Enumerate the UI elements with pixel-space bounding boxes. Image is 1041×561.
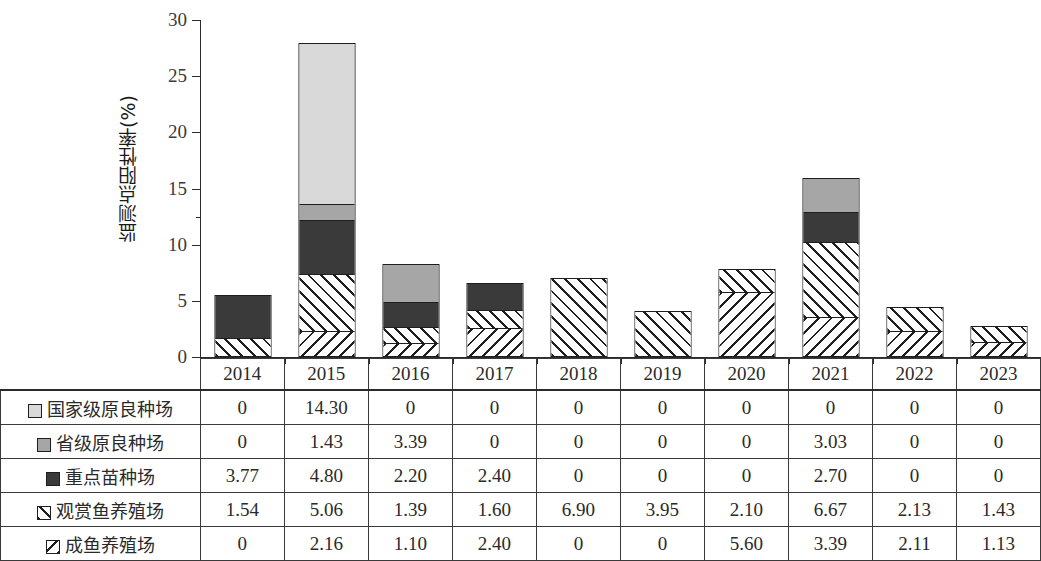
bar-stack[interactable]	[383, 264, 440, 357]
bar-stack[interactable]	[887, 307, 944, 357]
cell-2020: 0	[704, 459, 788, 493]
cell-2014: 3.77	[200, 459, 284, 493]
bar-stack[interactable]	[971, 326, 1028, 357]
bar-column-2022[interactable]	[873, 20, 957, 357]
cell-2014: 0	[200, 390, 284, 425]
column-header-2014: 2014	[200, 359, 284, 391]
cell-2018: 0	[536, 459, 620, 493]
y-tick-label-wrap: 30	[145, 10, 187, 29]
bar-segment	[972, 343, 1027, 356]
bar-column-2020[interactable]	[705, 20, 789, 357]
bar-segment	[384, 265, 439, 303]
bar-segment	[804, 179, 859, 213]
bar-segment	[720, 293, 775, 356]
bar-column-2018[interactable]	[537, 20, 621, 357]
cell-2016: 1.39	[368, 493, 452, 527]
bar-column-2023[interactable]	[957, 20, 1041, 357]
column-header-2022: 2022	[872, 359, 956, 391]
column-header-2021: 2021	[788, 359, 872, 391]
table-corner-blank	[1, 359, 201, 391]
table-body: 国家级原良种场014.3000000000省级原良种场01.433.390000…	[1, 390, 1041, 561]
bar-segment	[888, 308, 943, 332]
legend-row-label-dark: 重点苗种场	[1, 459, 201, 493]
column-header-2019: 2019	[620, 359, 704, 391]
cell-2018: 0	[536, 390, 620, 425]
y-axis-title: 监测点阳性率(%)	[118, 95, 148, 242]
cell-2023: 0	[956, 459, 1040, 493]
column-header-2017: 2017	[452, 359, 536, 391]
bar-segment	[468, 311, 523, 329]
bar-segment	[300, 332, 355, 356]
series-name: 观赏鱼养殖场	[56, 501, 164, 522]
legend-row-label-medium: 省级原良种场	[1, 425, 201, 459]
table-row: 重点苗种场3.774.802.202.400002.7000	[1, 459, 1041, 493]
cell-2022: 0	[872, 459, 956, 493]
cell-2019: 0	[620, 527, 704, 561]
bar-column-2021[interactable]	[789, 20, 873, 357]
table-row: 国家级原良种场014.3000000000	[1, 390, 1041, 425]
cell-2021: 0	[788, 390, 872, 425]
bar-segment	[216, 296, 271, 338]
y-tick-label-wrap: 25	[145, 66, 187, 85]
column-header-2015: 2015	[284, 359, 368, 391]
cell-2022: 2.11	[872, 527, 956, 561]
cell-2015: 2.16	[284, 527, 368, 561]
cell-2019: 0	[620, 390, 704, 425]
y-tick-label: 20	[147, 122, 187, 141]
bar-stack[interactable]	[467, 283, 524, 357]
series-name: 省级原良种场	[56, 433, 164, 454]
table-row: 省级原良种场01.433.3900003.0300	[1, 425, 1041, 459]
bar-column-2019[interactable]	[621, 20, 705, 357]
y-tick-label: 25	[147, 66, 187, 85]
cell-2015: 5.06	[284, 493, 368, 527]
bar-segment	[384, 303, 439, 328]
column-header-2016: 2016	[368, 359, 452, 391]
y-tick-label: 10	[147, 235, 187, 254]
cell-2017: 1.60	[452, 493, 536, 527]
cell-2021: 3.03	[788, 425, 872, 459]
cell-2014: 0	[200, 527, 284, 561]
cell-2020: 0	[704, 390, 788, 425]
cell-2021: 3.39	[788, 527, 872, 561]
cell-2014: 1.54	[200, 493, 284, 527]
cell-2020: 2.10	[704, 493, 788, 527]
forward-slash-hatch-swatch	[37, 506, 51, 520]
cell-2016: 2.20	[368, 459, 452, 493]
table-header: 2014201520162017201820192020202120222023	[1, 359, 1041, 391]
cell-2018: 0	[536, 425, 620, 459]
cell-2017: 2.40	[452, 459, 536, 493]
cell-2017: 2.40	[452, 527, 536, 561]
bar-column-2015[interactable]	[285, 20, 369, 357]
bar-segment	[300, 205, 355, 221]
bar-column-2016[interactable]	[369, 20, 453, 357]
legend-row-label-bslash: 成鱼养殖场	[1, 527, 201, 561]
bar-stack[interactable]	[719, 269, 776, 357]
y-tick-label-wrap: 20	[145, 122, 187, 141]
cell-2019: 3.95	[620, 493, 704, 527]
bar-stack[interactable]	[215, 295, 272, 357]
legend-row-label-fslash: 观赏鱼养殖场	[1, 493, 201, 527]
stacked-bar-chart: 监测点阳性率(%) 051015202530	[0, 0, 1041, 360]
cell-2021: 6.67	[788, 493, 872, 527]
y-tick-20	[192, 132, 201, 133]
bar-column-2014[interactable]	[201, 20, 285, 357]
series-name: 国家级原良种场	[47, 399, 173, 420]
cell-2016: 3.39	[368, 425, 452, 459]
bar-column-2017[interactable]	[453, 20, 537, 357]
bar-segment	[888, 332, 943, 356]
cell-2017: 0	[452, 390, 536, 425]
bar-segment	[468, 284, 523, 311]
y-tick-30	[192, 20, 201, 21]
cell-2019: 0	[620, 459, 704, 493]
cell-2020: 0	[704, 425, 788, 459]
bar-stack[interactable]	[635, 311, 692, 357]
plot-area	[201, 20, 1041, 357]
bar-stack[interactable]	[803, 178, 860, 357]
bar-stack[interactable]	[551, 278, 608, 358]
bar-stack[interactable]	[299, 43, 356, 357]
bar-segment	[300, 221, 355, 275]
data-table: 2014201520162017201820192020202120222023…	[0, 358, 1041, 561]
column-header-2018: 2018	[536, 359, 620, 391]
bar-segment	[972, 327, 1027, 343]
